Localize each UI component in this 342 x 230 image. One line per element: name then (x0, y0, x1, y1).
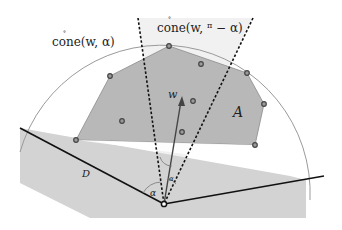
label-alpha: α (150, 188, 156, 198)
label-cone-left: cone(w, α) (52, 35, 115, 49)
point (120, 119, 125, 124)
point (191, 99, 196, 104)
label-w: w (168, 88, 178, 101)
point (253, 143, 258, 148)
point (108, 74, 113, 79)
label-A: A (231, 104, 243, 120)
label-cone-top: cone(w, π − α) (157, 21, 243, 35)
point (245, 71, 250, 76)
point (180, 130, 185, 135)
label-cone-left-ring: ° (63, 29, 66, 36)
label-D: D (81, 168, 90, 179)
point (74, 138, 79, 143)
point (199, 62, 204, 67)
point (262, 102, 267, 107)
label-cone-top-ring: ° (168, 15, 171, 22)
apex-point (161, 201, 166, 206)
diagram-canvas: cone(w, α) ° cone(w, π − α) ° A D w α α (0, 0, 342, 230)
point (167, 44, 172, 49)
label-alpha-small: α (169, 175, 174, 183)
